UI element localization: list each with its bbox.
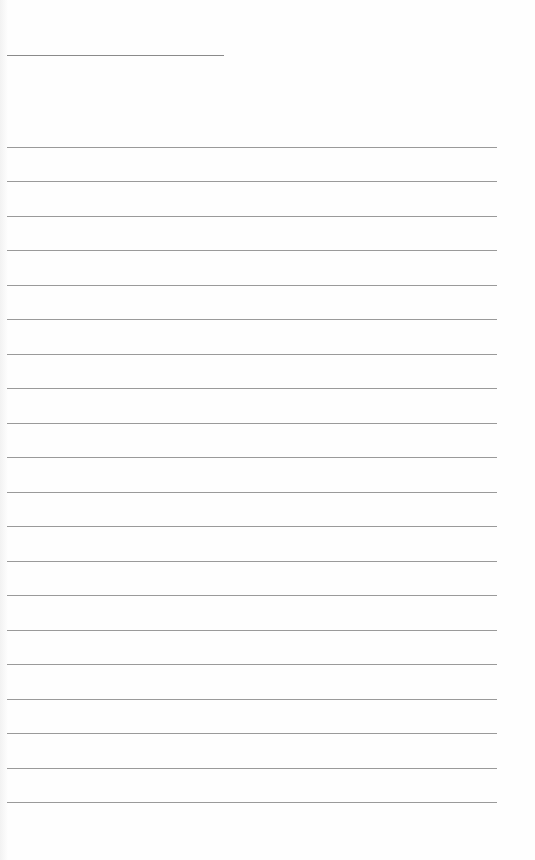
header-line <box>7 55 224 56</box>
ruled-line <box>7 561 497 562</box>
ruled-line <box>7 802 497 803</box>
ruled-line <box>7 285 497 286</box>
ruled-line <box>7 250 497 251</box>
ruled-line <box>7 423 497 424</box>
ruled-line <box>7 319 497 320</box>
ruled-line <box>7 354 497 355</box>
ruled-line <box>7 147 497 148</box>
ruled-line <box>7 630 497 631</box>
ruled-line <box>7 768 497 769</box>
ruled-line <box>7 595 497 596</box>
lined-paper-page <box>0 0 535 860</box>
page-edge-shadow <box>0 0 8 860</box>
ruled-line <box>7 388 497 389</box>
ruled-line <box>7 457 497 458</box>
ruled-line <box>7 733 497 734</box>
ruled-line <box>7 492 497 493</box>
ruled-line <box>7 181 497 182</box>
ruled-line <box>7 699 497 700</box>
ruled-line <box>7 216 497 217</box>
ruled-line <box>7 664 497 665</box>
ruled-line <box>7 526 497 527</box>
